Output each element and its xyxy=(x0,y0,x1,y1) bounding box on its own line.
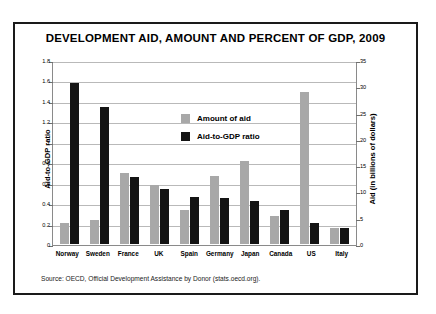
chart-title: DEVELOPMENT AID, AMOUNT AND PERCENT OF G… xyxy=(15,32,416,44)
bar-group xyxy=(295,62,325,244)
bar-amount-of-aid[interactable] xyxy=(120,173,129,244)
y-axis-right-tick-label: 5 xyxy=(360,217,363,223)
y-axis-left-tick-label: 1.4 xyxy=(42,100,50,106)
y-axis-left-tick-label: 0.4 xyxy=(42,202,50,208)
x-axis-tick-label: Sweden xyxy=(83,250,114,257)
chart-figure: DEVELOPMENT AID, AMOUNT AND PERCENT OF G… xyxy=(13,22,418,295)
y-axis-left-tick-label: 1.8 xyxy=(42,59,50,65)
x-axis-tick-label: Japan xyxy=(235,250,266,257)
x-axis-tick-label: UK xyxy=(144,250,175,257)
y-axis-right-title: Aid (in billions of dollars) xyxy=(368,113,377,204)
plot-area: 1.8 1.6 1.4 1.2 1 0.8 0.6 0.4 0.2 0 35 3… xyxy=(52,62,357,246)
bar-aid-to-gdp-ratio[interactable] xyxy=(250,201,259,244)
bar-amount-of-aid[interactable] xyxy=(300,92,309,244)
y-axis-right-tick-label: 25 xyxy=(360,112,366,118)
y-axis-left-title: Aid-to-GDP ratio xyxy=(43,129,52,188)
y-axis-right-tick-label: 30 xyxy=(360,86,366,92)
bar-group xyxy=(144,62,174,244)
y-axis-left-tick-label: 0.8 xyxy=(42,161,50,167)
y-axis-right-tick-label: 20 xyxy=(360,138,366,144)
x-axis-tick-label: Germany xyxy=(205,250,236,257)
bar-aid-to-gdp-ratio[interactable] xyxy=(70,83,79,244)
legend-item-aid-to-gdp-ratio[interactable]: Aid-to-GDP ratio xyxy=(181,132,260,141)
bar-group xyxy=(325,62,355,244)
x-axis-tick-label: Spain xyxy=(174,250,205,257)
bar-group xyxy=(114,62,144,244)
x-axis-tick-label: US xyxy=(296,250,327,257)
bar-amount-of-aid[interactable] xyxy=(180,210,189,245)
y-axis-right-tick-label: 35 xyxy=(360,59,366,65)
bar-aid-to-gdp-ratio[interactable] xyxy=(190,197,199,244)
y-axis-left-tick-label: 0 xyxy=(47,243,50,249)
y-axis-left-tick-label: 1.6 xyxy=(42,80,50,86)
bar-aid-to-gdp-ratio[interactable] xyxy=(310,223,319,244)
y-axis-left-tick-label: 1 xyxy=(47,141,50,147)
source-note: Source: OECD, Official Development Assis… xyxy=(41,275,260,282)
y-axis-right-tick-label: 0 xyxy=(360,243,363,249)
x-axis-tick-label: France xyxy=(113,250,144,257)
legend-item-amount-of-aid[interactable]: Amount of aid xyxy=(181,114,260,123)
bar-amount-of-aid[interactable] xyxy=(210,176,219,244)
bar-aid-to-gdp-ratio[interactable] xyxy=(160,189,169,244)
y-axis-right-tick-label: 15 xyxy=(360,164,366,170)
bar-amount-of-aid[interactable] xyxy=(270,216,279,244)
x-axis-labels: Norway Sweden France UK Spain Germany Ja… xyxy=(52,250,357,257)
x-axis-tick-label: Italy xyxy=(327,250,358,257)
bar-group xyxy=(54,62,84,244)
bar-group xyxy=(235,62,265,244)
bar-group xyxy=(174,62,204,244)
bar-aid-to-gdp-ratio[interactable] xyxy=(220,198,229,244)
bar-series-container xyxy=(54,62,355,244)
legend-swatch-gray xyxy=(181,114,190,123)
legend-swatch-black xyxy=(181,132,190,141)
bar-amount-of-aid[interactable] xyxy=(330,228,339,244)
legend-label: Aid-to-GDP ratio xyxy=(197,132,260,141)
y-axis-left-tick-label: 1.2 xyxy=(42,121,50,127)
bar-aid-to-gdp-ratio[interactable] xyxy=(280,210,289,244)
bar-aid-to-gdp-ratio[interactable] xyxy=(130,177,139,244)
bar-group xyxy=(204,62,234,244)
legend-label: Amount of aid xyxy=(197,114,251,123)
bar-aid-to-gdp-ratio[interactable] xyxy=(100,107,109,244)
bar-group xyxy=(84,62,114,244)
bar-amount-of-aid[interactable] xyxy=(60,223,69,244)
bar-aid-to-gdp-ratio[interactable] xyxy=(340,228,349,244)
bar-amount-of-aid[interactable] xyxy=(240,161,249,244)
bar-amount-of-aid[interactable] xyxy=(90,220,99,244)
y-axis-left-tick-label: 0.2 xyxy=(42,223,50,229)
x-axis-tick-label: Canada xyxy=(266,250,297,257)
x-axis-tick-label: Norway xyxy=(52,250,83,257)
y-axis-right-tick-label: 10 xyxy=(360,191,366,197)
chart-legend: Amount of aid Aid-to-GDP ratio xyxy=(181,114,260,150)
bar-amount-of-aid[interactable] xyxy=(150,185,159,244)
y-axis-left-tick-label: 0.6 xyxy=(42,182,50,188)
bar-group xyxy=(265,62,295,244)
